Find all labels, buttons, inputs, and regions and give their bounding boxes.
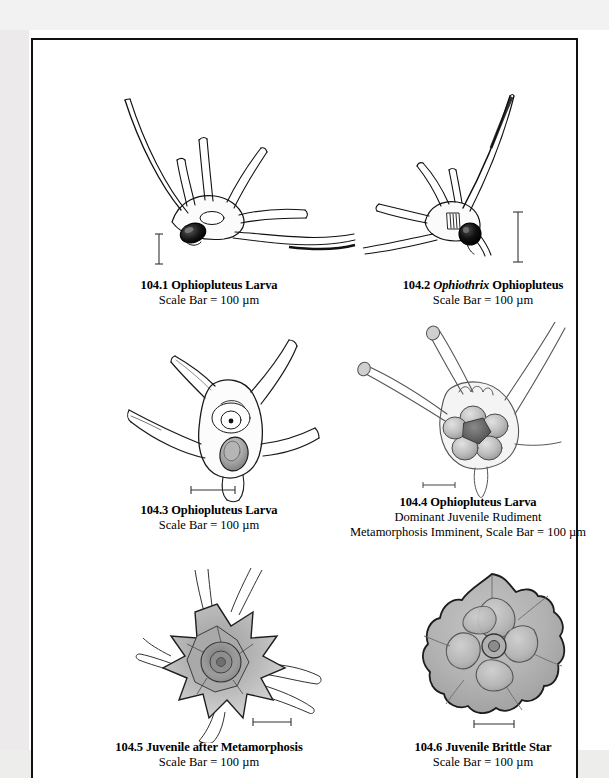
figure-104-1-caption: 104.1 Ophiopluteus Larva Scale Bar = 100… — [64, 278, 354, 308]
figure-104-6-illustration — [388, 568, 603, 743]
figure-104-1-illustration — [109, 82, 359, 267]
figure-104-4-subtitle-line2: Metamorphosis Imminent, Scale Bar = 100 … — [318, 525, 609, 540]
figure-104-1-title: 104.1 Ophiopluteus Larva — [64, 278, 354, 293]
figure-104-3-caption: 104.3 Ophiopluteus Larva Scale Bar = 100… — [64, 503, 354, 533]
figure-104-2-title: 104.2 Ophiothrix Ophiopluteus — [343, 278, 609, 293]
figure-104-2-scalebar-label: Scale Bar = 100 µm — [343, 293, 609, 308]
figure-104-6-caption: 104.6 Juvenile Brittle Star Scale Bar = … — [343, 740, 609, 770]
figure-104-3-scalebar-label: Scale Bar = 100 µm — [64, 518, 354, 533]
genus-name: Ophiothrix — [433, 278, 489, 292]
scale-bar-104-3 — [191, 486, 235, 494]
figure-104-4-title: 104.4 Ophiopluteus Larva — [318, 495, 609, 510]
figure-104-3-illustration — [93, 332, 353, 504]
figure-104-2-caption: 104.2 Ophiothrix Ophiopluteus Scale Bar … — [343, 278, 609, 308]
scan-top-margin — [0, 0, 609, 30]
figure-104-4-subtitle-line1: Dominant Juvenile Rudiment — [318, 510, 609, 525]
figure-104-5-caption: 104.5 Juvenile after Metamorphosis Scale… — [64, 740, 354, 770]
scale-bar-104-1 — [155, 234, 163, 264]
figure-104-4-caption: 104.4 Ophiopluteus Larva Dominant Juveni… — [318, 495, 609, 539]
scale-bar-104-2 — [513, 212, 523, 262]
figure-104-5-scalebar-label: Scale Bar = 100 µm — [64, 755, 354, 770]
figure-104-3-title: 104.3 Ophiopluteus Larva — [64, 503, 354, 518]
figure-104-5-illustration — [113, 568, 338, 743]
scale-bar-104-6 — [474, 720, 514, 728]
figure-plate-frame: 104.1 Ophiopluteus Larva Scale Bar = 100… — [31, 38, 578, 778]
figure-104-2-illustration — [363, 82, 598, 267]
figure-104-5-title: 104.5 Juvenile after Metamorphosis — [64, 740, 354, 755]
figure-104-6-scalebar-label: Scale Bar = 100 µm — [343, 755, 609, 770]
figure-104-4-illustration — [333, 322, 598, 507]
scale-bar-104-5 — [253, 718, 291, 726]
scan-left-margin — [0, 0, 29, 750]
figure-104-6-title: 104.6 Juvenile Brittle Star — [343, 740, 609, 755]
scale-bar-104-4 — [423, 482, 455, 488]
figure-104-1-scalebar-label: Scale Bar = 100 µm — [64, 293, 354, 308]
